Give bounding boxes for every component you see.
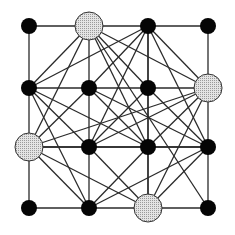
graph-edge <box>148 88 208 208</box>
graph-node <box>21 18 37 34</box>
graph-node <box>200 18 216 34</box>
graph-diagram <box>0 0 235 235</box>
graph-node <box>140 18 156 34</box>
graph-node <box>21 80 37 96</box>
graph-node <box>21 200 37 216</box>
queen-node <box>15 133 43 161</box>
queen-node <box>75 12 103 40</box>
queen-node <box>134 194 162 222</box>
graph-edge <box>29 26 89 147</box>
graph-node <box>81 139 97 155</box>
graph-node <box>81 80 97 96</box>
graph-node <box>200 200 216 216</box>
graph-node <box>140 139 156 155</box>
graph-node <box>200 139 216 155</box>
queen-node <box>194 74 222 102</box>
edge-layer <box>29 26 208 208</box>
graph-node <box>140 80 156 96</box>
graph-edge <box>29 88 208 147</box>
graph-node <box>81 200 97 216</box>
